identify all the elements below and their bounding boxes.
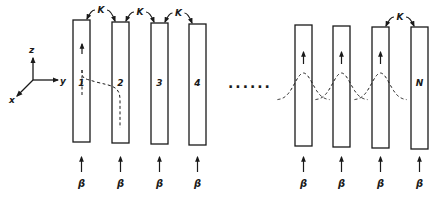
waveguide	[372, 27, 389, 148]
coupling-label: K	[98, 5, 106, 15]
power-transfer-path	[82, 68, 120, 128]
waveguide: 3	[151, 23, 168, 144]
waveguide-rect	[295, 25, 312, 146]
ellipsis: ......	[228, 75, 272, 91]
x-axis-label: x	[8, 95, 16, 105]
waveguide: 4	[189, 24, 206, 145]
mode-profile	[278, 73, 330, 100]
waveguide-rect	[411, 27, 428, 149]
waveguide: N	[411, 27, 428, 149]
waveguide-rect	[372, 27, 389, 148]
beta-label: β	[116, 178, 124, 189]
coupling-arrow-icon	[107, 10, 115, 21]
waveguide-label: 2	[117, 78, 123, 88]
mode-profile	[316, 73, 368, 100]
coordinate-axes	[17, 58, 58, 96]
coupling-arrows: KKKK	[87, 5, 414, 26]
coupling-arrow-icon	[406, 17, 414, 26]
coupling-label: K	[175, 8, 183, 18]
coupling-label: K	[137, 7, 145, 17]
beta-label: β	[415, 178, 423, 189]
coupling-label: K	[397, 12, 405, 22]
waveguide-label: 3	[156, 78, 162, 88]
x-axis	[17, 80, 33, 96]
mode-profiles	[278, 52, 407, 100]
coupling-arrow-icon	[146, 12, 154, 22]
waveguide-rect	[333, 26, 350, 147]
mode-profile	[355, 73, 407, 100]
beta-label: β	[299, 178, 307, 189]
waveguide-array-diagram: z y x 1234N KKKK ββββββββ ......	[0, 0, 434, 200]
beta-label: β	[155, 178, 163, 189]
waveguide-label: 4	[193, 78, 200, 88]
waveguide-label: N	[416, 78, 424, 88]
coupling-arrow-icon	[87, 10, 95, 19]
coupling-arrow-icon	[185, 13, 193, 23]
coupling-arrow-icon	[386, 17, 394, 26]
waveguide	[295, 25, 312, 146]
y-axis-label: y	[60, 76, 67, 86]
coupling-arrow-icon	[126, 12, 134, 21]
propagation-constants: ββββββββ	[77, 157, 423, 189]
z-axis-label: z	[28, 45, 35, 55]
beta-label: β	[376, 178, 384, 189]
coupling-arrow-icon	[165, 13, 173, 22]
beta-label: β	[337, 178, 345, 189]
beta-label: β	[193, 178, 201, 189]
waveguide	[333, 26, 350, 147]
beta-label: β	[77, 178, 85, 189]
